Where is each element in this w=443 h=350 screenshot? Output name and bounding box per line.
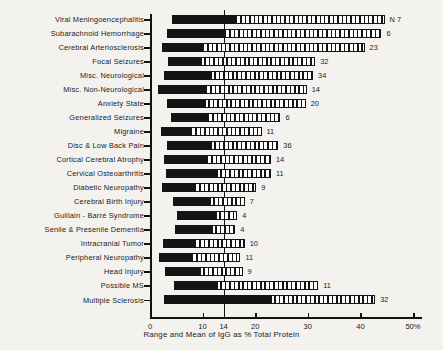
category-label: Misc. Non-Neurological <box>63 85 144 94</box>
n-value-label: 6 <box>285 113 289 122</box>
range-bar: 11 <box>150 169 443 178</box>
range-bar: 14 <box>150 155 443 164</box>
mean-segment <box>164 71 209 80</box>
range-bar: 20 <box>150 99 443 108</box>
range-bar: 23 <box>150 43 443 52</box>
range-segment <box>208 197 245 206</box>
mean-segment <box>159 253 191 262</box>
range-segment <box>202 43 365 52</box>
range-segment <box>194 239 244 248</box>
mean-segment <box>177 211 213 220</box>
category-label: Cortical Cerebral Atrophy <box>56 155 144 164</box>
range-segment <box>269 295 375 304</box>
x-axis-line <box>150 317 422 319</box>
mean-segment <box>167 141 210 150</box>
range-segment <box>209 71 313 80</box>
n-value-label: 23 <box>370 43 378 52</box>
mean-segment <box>164 295 269 304</box>
range-bar: 11 <box>150 281 443 290</box>
n-value-label: 32 <box>320 57 328 66</box>
range-segment <box>215 281 318 290</box>
n-value-label: 4 <box>240 225 244 234</box>
n-value-label: 7 <box>250 197 254 206</box>
x-axis-tick <box>360 313 362 319</box>
range-segment <box>199 57 315 66</box>
plot-area: N 76233234142061136141197441011911320101… <box>150 10 443 310</box>
range-bar: 6 <box>150 29 443 38</box>
range-segment <box>205 85 307 94</box>
range-bar: 14 <box>150 85 443 94</box>
n-value-label: 10 <box>250 239 258 248</box>
n-value-label: 11 <box>245 253 253 262</box>
category-label: Migraine <box>114 127 144 136</box>
mean-segment <box>163 239 195 248</box>
range-segment <box>210 225 235 234</box>
category-label: Generalized Seizures <box>69 113 144 122</box>
range-bar: 36 <box>150 141 443 150</box>
n-value-label: 34 <box>318 71 326 80</box>
mean-segment <box>162 183 194 192</box>
category-label: Diabetic Neuropathy <box>73 183 144 192</box>
n-value-label: 14 <box>312 85 320 94</box>
n-value-label: N 7 <box>390 15 402 24</box>
n-value-label: 36 <box>283 141 291 150</box>
n-value-label: 9 <box>261 183 265 192</box>
range-bar: 4 <box>150 211 443 220</box>
range-bar: 4 <box>150 225 443 234</box>
mean-segment <box>174 281 215 290</box>
category-label: Misc. Neurological <box>80 71 144 80</box>
mean-segment <box>168 57 200 66</box>
n-value-label: 11 <box>276 169 284 178</box>
range-segment <box>191 253 240 262</box>
n-value-label: 6 <box>386 29 390 38</box>
range-segment <box>190 127 262 136</box>
mean-segment <box>165 267 199 276</box>
range-segment <box>194 183 256 192</box>
x-axis-tick <box>203 313 205 319</box>
n-value-label: 20 <box>311 99 319 108</box>
category-label: Disc & Low Back Pain <box>68 141 144 150</box>
x-axis-tick <box>308 313 310 319</box>
category-label: Subarachnoid Hemorrhage <box>51 29 144 38</box>
category-label: Cerebral Arteriosclerosis <box>58 43 144 52</box>
x-axis-tick <box>255 313 257 319</box>
mean-segment <box>175 225 210 234</box>
n-value-label: 11 <box>267 127 275 136</box>
mean-segment <box>161 127 190 136</box>
category-label: Peripheral Neuropathy <box>66 253 144 262</box>
range-segment <box>215 169 271 178</box>
n-value-label: 11 <box>323 281 331 290</box>
mean-segment <box>164 155 206 164</box>
range-segment <box>207 113 281 122</box>
range-segment <box>206 155 271 164</box>
mean-segment <box>167 29 224 38</box>
range-bar: 10 <box>150 239 443 248</box>
range-bar: 32 <box>150 57 443 66</box>
range-segment <box>214 211 238 220</box>
range-segment <box>209 141 278 150</box>
range-bar: 9 <box>150 183 443 192</box>
category-label: Cervical Osteoarthritis <box>67 169 144 178</box>
category-label: Possible MS <box>101 281 144 290</box>
mean-segment <box>158 85 204 94</box>
category-label: Cerebral Birth Injury <box>74 197 144 206</box>
range-segment <box>235 15 384 24</box>
range-bar: 9 <box>150 267 443 276</box>
range-segment <box>224 29 382 38</box>
range-bar: 34 <box>150 71 443 80</box>
range-bar: 11 <box>150 127 443 136</box>
category-label: Multiple Sclerosis <box>83 295 144 304</box>
x-axis-tick <box>224 313 226 319</box>
n-value-label: 14 <box>276 155 284 164</box>
category-label-column: Viral MeningoencephalitisSubarachnoid He… <box>0 0 148 310</box>
mean-segment <box>162 43 202 52</box>
category-label: Senile & Presenile Dementia <box>45 225 144 234</box>
range-bar: 7 <box>150 197 443 206</box>
mean-segment <box>166 169 215 178</box>
range-bar: N 7 <box>150 15 443 24</box>
range-bar: 6 <box>150 113 443 122</box>
range-segment <box>198 267 242 276</box>
category-label: Focal Seizures <box>92 57 144 66</box>
range-bar: 32 <box>150 295 443 304</box>
range-bar: 11 <box>150 253 443 262</box>
